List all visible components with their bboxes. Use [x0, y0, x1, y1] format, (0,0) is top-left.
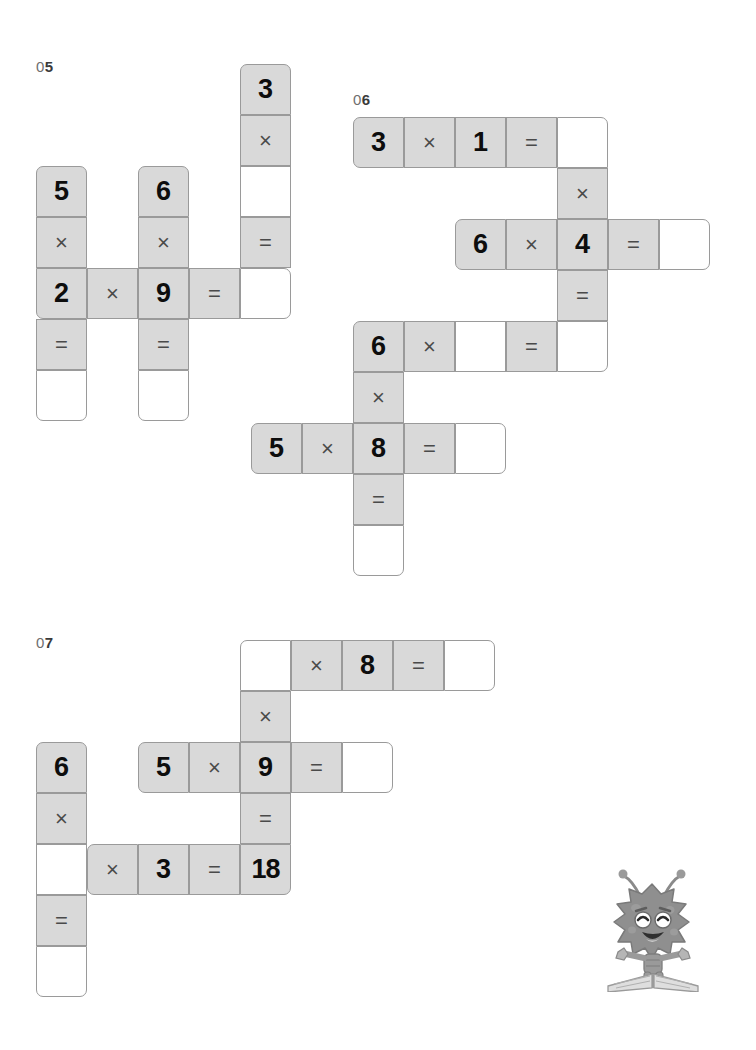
- operator-cell: ×: [404, 117, 455, 168]
- answer-cell[interactable]: [240, 166, 291, 217]
- operator-cell: ×: [189, 742, 240, 793]
- operator-cell: =: [240, 217, 291, 268]
- operator-cell: ×: [240, 691, 291, 742]
- answer-cell[interactable]: [36, 370, 87, 421]
- operator-cell: ×: [240, 115, 291, 166]
- operator-cell: =: [291, 742, 342, 793]
- operator-cell: ×: [353, 372, 404, 423]
- operator-cell: =: [608, 219, 659, 270]
- operator-cell: =: [506, 321, 557, 372]
- number-cell: 3: [138, 844, 189, 895]
- answer-cell[interactable]: [557, 117, 608, 168]
- answer-cell[interactable]: [557, 321, 608, 372]
- operator-cell: =: [393, 640, 444, 691]
- number-cell: 5: [36, 166, 87, 217]
- operator-cell: =: [506, 117, 557, 168]
- puzzle-label-05: 05: [36, 58, 53, 75]
- operator-cell: =: [189, 268, 240, 319]
- number-cell: 3: [240, 64, 291, 115]
- number-cell: 5: [138, 742, 189, 793]
- operator-cell: =: [36, 895, 87, 946]
- puzzle-label-06-number: 6: [362, 91, 371, 108]
- number-cell: 9: [240, 742, 291, 793]
- number-cell: 8: [353, 423, 404, 474]
- operator-cell: ×: [138, 217, 189, 268]
- puzzle-label-07: 07: [36, 634, 53, 651]
- worksheet-page: 05 3×=5×2=×6×9== 06 3×1=×6×4==6×=×5×8== …: [0, 0, 756, 1050]
- number-cell: 2: [36, 268, 87, 319]
- operator-cell: =: [138, 319, 189, 370]
- puzzle-label-05-zero: 0: [36, 58, 45, 75]
- number-cell: 6: [36, 742, 87, 793]
- puzzle-label-07-number: 7: [45, 634, 54, 651]
- puzzle-label-06: 06: [353, 91, 370, 108]
- operator-cell: =: [404, 423, 455, 474]
- operator-cell: =: [557, 270, 608, 321]
- puzzle-label-05-number: 5: [45, 58, 54, 75]
- answer-cell[interactable]: [353, 525, 404, 576]
- answer-cell[interactable]: [36, 946, 87, 997]
- operator-cell: =: [36, 319, 87, 370]
- monster-on-book-mascot: [594, 862, 714, 992]
- operator-cell: ×: [302, 423, 353, 474]
- puzzle-label-06-zero: 0: [353, 91, 362, 108]
- number-cell: 9: [138, 268, 189, 319]
- operator-cell: ×: [506, 219, 557, 270]
- number-cell: 6: [353, 321, 404, 372]
- number-cell: 8: [342, 640, 393, 691]
- operator-cell: ×: [557, 168, 608, 219]
- operator-cell: ×: [291, 640, 342, 691]
- answer-cell[interactable]: [342, 742, 393, 793]
- answer-cell[interactable]: [444, 640, 495, 691]
- operator-cell: ×: [36, 793, 87, 844]
- answer-cell[interactable]: [455, 321, 506, 372]
- operator-cell: ×: [87, 268, 138, 319]
- answer-cell[interactable]: [240, 268, 291, 319]
- number-cell: 5: [251, 423, 302, 474]
- operator-cell: ×: [87, 844, 138, 895]
- operator-cell: ×: [404, 321, 455, 372]
- answer-cell[interactable]: [240, 640, 291, 691]
- puzzle-label-07-zero: 0: [36, 634, 45, 651]
- number-cell: 18: [240, 844, 291, 895]
- answer-cell[interactable]: [138, 370, 189, 421]
- answer-cell[interactable]: [659, 219, 710, 270]
- number-cell: 3: [353, 117, 404, 168]
- operator-cell: ×: [36, 217, 87, 268]
- operator-cell: =: [189, 844, 240, 895]
- answer-cell[interactable]: [455, 423, 506, 474]
- answer-cell[interactable]: [36, 844, 87, 895]
- number-cell: 6: [138, 166, 189, 217]
- number-cell: 4: [557, 219, 608, 270]
- operator-cell: =: [353, 474, 404, 525]
- number-cell: 6: [455, 219, 506, 270]
- operator-cell: =: [240, 793, 291, 844]
- number-cell: 1: [455, 117, 506, 168]
